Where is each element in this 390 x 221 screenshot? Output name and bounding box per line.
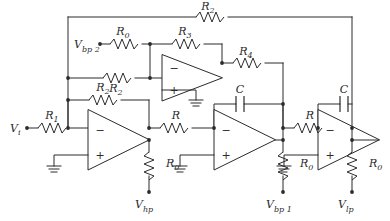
svg-text:Vhp: Vhp	[135, 198, 153, 214]
label-sub: 0	[377, 163, 382, 172]
label-sub: 0	[125, 31, 130, 40]
svg-text:Vbp 2: Vbp 2	[74, 38, 100, 54]
junction-dot	[66, 126, 70, 130]
svg-text:R0: R0	[115, 25, 129, 40]
label-c-int2: C	[340, 83, 349, 96]
svg-text:C: C	[340, 83, 349, 96]
node-label-vhp: Vhp	[135, 198, 153, 214]
label-text: R	[299, 157, 308, 170]
label-text: R	[368, 157, 377, 170]
junction-dot	[350, 138, 354, 142]
label-r4: R4	[238, 45, 252, 60]
svg-text:C: C	[236, 83, 245, 96]
label-sub: 3	[187, 31, 192, 40]
resistor-r3-symbol	[172, 39, 200, 49]
label-r2-inv: R2	[108, 82, 122, 97]
junction-layer	[25, 42, 354, 194]
circuit-diagram-canvas: − + − + − + − + R2 R0 R3 R2 R4 R	[0, 0, 390, 221]
label-r3: R3	[177, 25, 191, 40]
node-label-vlp: Vlp	[338, 198, 354, 214]
label-text: R	[44, 109, 53, 122]
junction-dot	[147, 138, 151, 142]
resistor-r0-bp2-symbol	[110, 39, 138, 49]
label-sub: 4	[247, 51, 253, 60]
junction-dot	[220, 61, 224, 65]
resistor-r1-symbol	[38, 123, 66, 133]
svg-text:R0: R0	[165, 157, 179, 172]
resistor-r-int1-symbol	[160, 123, 188, 133]
terminal-dot-vlp	[350, 190, 354, 194]
svg-text:Vbp 1: Vbp 1	[266, 198, 292, 214]
junction-dot	[148, 42, 152, 46]
label-sub: 2	[209, 6, 215, 15]
label-text: R	[305, 109, 314, 122]
label-text: R	[115, 25, 124, 38]
svg-text:R4: R4	[238, 45, 252, 60]
svg-text:R2: R2	[95, 81, 109, 96]
node-label-sub: bp 1	[274, 205, 292, 214]
schematic-figure: − + − + − + − + R2 R0 R3 R2 R4 R	[0, 0, 390, 221]
terminal-dot-vhp	[147, 190, 151, 194]
wire-hp-plus-gnd	[54, 155, 88, 166]
junction-dot	[147, 126, 151, 130]
svg-text:R2: R2	[200, 0, 214, 15]
junction-dot	[281, 102, 285, 106]
svg-text:R: R	[171, 109, 180, 122]
label-r1: R1	[44, 109, 58, 124]
junction-dot	[66, 76, 70, 80]
label-r2-top: R2	[200, 0, 214, 15]
opamp-int1-plus-sign: +	[221, 149, 230, 162]
label-text: R	[238, 45, 247, 58]
node-label-sub: lp	[346, 205, 354, 214]
label-text: R	[177, 25, 186, 38]
opamp-hp-plus-sign: +	[95, 149, 104, 162]
node-label-sub: hp	[143, 205, 153, 214]
opamp-int2-minus-sign: −	[325, 124, 334, 137]
opamp-hp-minus-sign: −	[95, 124, 104, 137]
node-label-vi: Vi	[10, 122, 21, 137]
junction-dot	[66, 98, 70, 102]
terminal-dot-vbp1	[281, 190, 285, 194]
label-r0-lp: R0	[368, 157, 382, 172]
svg-text:Vlp: Vlp	[338, 198, 354, 214]
node-label-sub: i	[18, 128, 21, 137]
label-r0-bp2: R0	[115, 25, 129, 40]
resistor-r2-hp-fb-symbol	[89, 95, 117, 105]
node-label-vbp2: Vbp 2	[74, 38, 100, 54]
wire-int1-plus-gnd	[180, 155, 214, 166]
junction-dot	[316, 126, 320, 130]
junction-dot	[281, 138, 285, 142]
label-r-int2: R	[305, 109, 314, 122]
svg-text:R2: R2	[108, 82, 122, 97]
label-sub: 0	[308, 163, 313, 172]
junction-dot	[212, 126, 216, 130]
label-r0-bp1: R0	[299, 157, 313, 172]
label-sub: 2	[104, 87, 110, 96]
svg-text:R1: R1	[44, 109, 58, 124]
junction-dot	[281, 126, 285, 130]
label-r0-hp: R0	[165, 157, 179, 172]
label-text: R	[165, 157, 174, 170]
junction-dot	[148, 76, 152, 80]
label-sub: 0	[174, 163, 179, 172]
label-sub: 1	[54, 115, 59, 124]
label-text: R	[200, 0, 209, 13]
label-text: R	[95, 81, 104, 94]
node-label-sub: bp 2	[82, 45, 100, 54]
label-text: C	[236, 83, 245, 96]
node-label-vbp1: Vbp 1	[266, 198, 292, 214]
label-text: R	[171, 109, 180, 122]
terminal-dot-vi	[25, 126, 29, 130]
opamp-summer-plus-sign: +	[169, 84, 178, 97]
label-c-int1: C	[236, 83, 245, 96]
svg-text:R0: R0	[299, 157, 313, 172]
svg-text:Vi: Vi	[10, 122, 21, 137]
opamp-int1-minus-sign: −	[221, 124, 230, 137]
svg-text:R3: R3	[177, 25, 191, 40]
label-r2-hp-fb: R2	[95, 81, 109, 96]
svg-text:R0: R0	[368, 157, 382, 172]
label-text: C	[340, 83, 349, 96]
opamp-int2-plus-sign: +	[325, 149, 334, 162]
label-r-int1: R	[171, 109, 180, 122]
junction-dot	[350, 126, 354, 130]
